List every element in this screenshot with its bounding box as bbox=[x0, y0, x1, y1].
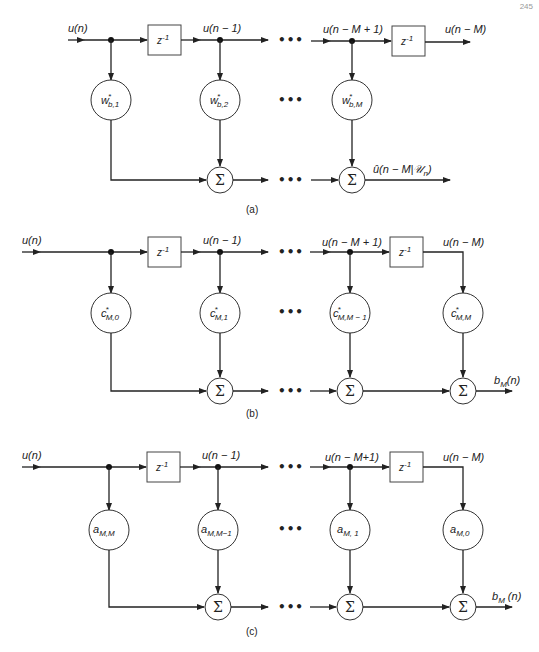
tapM1-label: u(n − M+1) bbox=[325, 451, 379, 463]
tap1-label: u(n − 1) bbox=[202, 449, 241, 461]
svg-text:Σ: Σ bbox=[347, 172, 357, 188]
output-label: bM(n) bbox=[494, 374, 521, 389]
svg-text:•••: ••• bbox=[278, 173, 304, 187]
svg-text:Σ: Σ bbox=[458, 599, 468, 615]
svg-text:Σ: Σ bbox=[458, 383, 468, 399]
svg-text:Σ: Σ bbox=[345, 599, 355, 615]
panel-caption: (b) bbox=[246, 408, 258, 419]
svg-text:•••: ••• bbox=[278, 384, 304, 398]
svg-text:•••: ••• bbox=[278, 600, 304, 614]
tapM1-label: u(n − M + 1) bbox=[322, 236, 382, 248]
tapM-label: u(n − M) bbox=[443, 451, 485, 463]
svg-text:•••: ••• bbox=[278, 93, 304, 107]
svg-text:•••: ••• bbox=[278, 460, 304, 474]
panel-caption: (c) bbox=[246, 626, 258, 637]
input-label: u(n) bbox=[22, 449, 42, 461]
lattice-filter-diagrams: u(n) z-1 u(n − 1) w*b,1 w*b,2 Σ ••• ••• … bbox=[0, 0, 539, 652]
tapM-label: u(n − M) bbox=[445, 23, 487, 35]
panel-a: u(n) z-1 u(n − 1) w*b,1 w*b,2 Σ ••• ••• … bbox=[68, 22, 487, 215]
ellipsis: ••• bbox=[278, 33, 304, 47]
svg-text:Σ: Σ bbox=[215, 172, 225, 188]
output-label: bM (n) bbox=[492, 590, 522, 605]
svg-text:•••: ••• bbox=[278, 245, 304, 259]
svg-text:•••: ••• bbox=[278, 305, 304, 319]
panel-b: u(n) z-1 u(n − 1) c*M,0 c*M,1 Σ ••• ••• … bbox=[22, 234, 521, 419]
output-label: û(n − M|𝒰n) bbox=[373, 163, 432, 178]
input-label: u(n) bbox=[68, 22, 88, 34]
svg-text:Σ: Σ bbox=[345, 383, 355, 399]
tapM-label: u(n − M) bbox=[443, 236, 485, 248]
tap1-label: u(n − 1) bbox=[203, 22, 242, 34]
svg-text:Σ: Σ bbox=[213, 599, 223, 615]
input-label: u(n) bbox=[22, 234, 42, 246]
svg-text:•••: ••• bbox=[278, 522, 304, 536]
svg-text:Σ: Σ bbox=[215, 383, 225, 399]
tap1-label: u(n − 1) bbox=[203, 234, 242, 246]
panel-c: u(n) z-1 u(n − 1) aM,M aM,M−1 Σ ••• ••• … bbox=[22, 449, 522, 637]
panel-caption: (a) bbox=[246, 204, 258, 215]
tapM1-label: u(n − M + 1) bbox=[323, 23, 383, 35]
